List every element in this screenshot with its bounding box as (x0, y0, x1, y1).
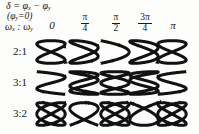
fraction-denominator: 2 (112, 24, 121, 34)
lissajous-cell-3-2-col4 (155, 99, 189, 129)
lissajous-figure-table: δ = φx − φy (φy=0) ωx : ωy 0π4π23π4π2:13… (0, 0, 199, 134)
column-header-label: 0 (37, 13, 67, 31)
fraction-denominator: 4 (138, 24, 152, 34)
column-header-4: π (158, 13, 188, 31)
lissajous-cell-3-2-col1 (67, 99, 101, 129)
fraction-numerator: π (81, 13, 90, 24)
lissajous-curve (130, 72, 158, 95)
lissajous-cell-2-1-col4 (155, 37, 189, 67)
legend-equals: = (11, 0, 23, 11)
column-header-0: 0 (37, 13, 67, 31)
column-header-label: π (158, 13, 188, 31)
column-header-2: π2 (101, 13, 131, 33)
lissajous-cell-3-2-col0 (34, 99, 68, 129)
column-header-fraction: π2 (112, 13, 121, 33)
fraction-denominator: 4 (81, 24, 90, 34)
lissajous-curve (158, 41, 186, 64)
lissajous-curve (101, 103, 129, 126)
lissajous-curve (158, 103, 186, 126)
lissajous-curve (37, 103, 65, 126)
legend-minus: − (31, 0, 43, 11)
legend-phi-y-value: =0) (18, 11, 32, 21)
lissajous-curve (37, 41, 65, 64)
lissajous-cell-3-1-col0 (34, 68, 68, 98)
column-header-fraction: 3π4 (138, 13, 152, 33)
fraction-numerator: 3π (138, 13, 152, 24)
lissajous-curve (70, 103, 98, 126)
legend-omega-x: ω (5, 21, 12, 32)
lissajous-cell-2-1-col0 (34, 37, 68, 67)
legend-phi-y-sub: y (48, 4, 51, 11)
column-header-1: π4 (70, 13, 100, 33)
lissajous-curve (130, 103, 158, 126)
lissajous-cell-3-1-col4 (155, 68, 189, 98)
legend-ratio-colon: : (15, 21, 23, 32)
lissajous-cell-2-1-col1 (67, 37, 101, 67)
legend-omega-y-sub: y (30, 25, 33, 32)
column-header-fraction: π4 (81, 13, 90, 33)
lissajous-cell-3-1-col1 (67, 68, 101, 98)
fraction-numerator: π (112, 13, 121, 24)
column-header-3: 3π4 (130, 13, 160, 33)
